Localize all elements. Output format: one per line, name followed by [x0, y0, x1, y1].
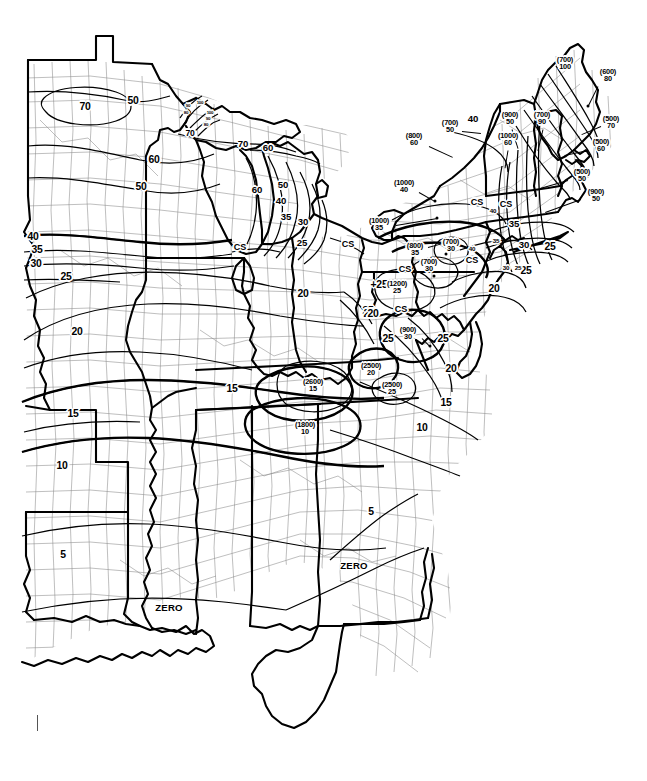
snow-load-value: 30	[421, 265, 437, 272]
contour-label: 70	[185, 129, 194, 138]
contour-label: 60	[148, 155, 159, 165]
contour-label: 15	[67, 409, 78, 419]
case-study-label: CS	[342, 240, 355, 249]
case-study-label: CS	[471, 198, 484, 207]
contour-label: 35	[493, 238, 499, 244]
elevation-limit-callout: (1800)10	[295, 421, 315, 436]
snow-load-value: 20	[361, 369, 381, 376]
snow-load-value: 35	[407, 249, 423, 256]
callout-leader-line	[582, 126, 601, 135]
contour-label: 35	[509, 219, 519, 229]
contour-label: 10	[56, 461, 67, 471]
snow-load-value: 25	[387, 287, 407, 294]
contour-label: 50	[278, 180, 288, 190]
contour-label: 20	[488, 284, 499, 294]
elevation-limit-callout: (500)50	[574, 168, 590, 183]
map-label-layer: 7050605070706090100801009080605040353025…	[0, 0, 647, 781]
contour-label: 35	[31, 245, 42, 255]
snow-load-value: 30	[400, 333, 416, 340]
callout-anchor-dot	[445, 253, 448, 256]
elevation-limit-callout: (2600)15	[303, 378, 323, 393]
contour-label: 40	[27, 232, 38, 242]
snow-load-value: 60	[498, 139, 518, 146]
contour-label: 15	[226, 384, 237, 394]
elevation-limit-callout: (900)50	[588, 188, 604, 203]
callout-leader-line	[505, 150, 509, 168]
case-study-label: CS	[234, 243, 247, 252]
callout-anchor-dot	[433, 275, 436, 278]
contour-label: 40	[469, 246, 475, 252]
contour-label: 25	[297, 238, 307, 248]
callout-anchor-dot	[434, 200, 437, 203]
elevation-limit-callout: (700)30	[421, 258, 437, 273]
callout-leader-line	[429, 146, 453, 158]
snow-load-value: 50	[442, 126, 458, 133]
contour-label: 70	[238, 139, 248, 149]
contour-label: 40	[490, 208, 496, 214]
elevation-limit-callout: (700)50	[442, 119, 458, 134]
contour-label: 40	[468, 114, 478, 124]
contour-label: 35	[281, 212, 291, 222]
snow-load-value: 25	[382, 388, 402, 395]
snow-load-value: 70	[603, 122, 619, 129]
zero-snow-load-label: ZERO	[155, 603, 182, 613]
contour-label: 60	[252, 185, 262, 195]
contour-label: 20	[297, 289, 308, 299]
case-study-label: CS	[500, 200, 513, 209]
snow-load-value: 90	[534, 118, 550, 125]
callout-anchor-dot	[436, 217, 439, 220]
contour-label: 100	[197, 101, 204, 105]
callout-anchor-dot	[429, 345, 432, 348]
contour-label: 25	[515, 265, 521, 271]
contour-label: 80	[204, 123, 208, 127]
elevation-limit-callout: (700)90	[534, 111, 550, 126]
snow-load-value: 60	[593, 145, 609, 152]
callout-leader-line	[428, 243, 443, 248]
elevation-limit-callout: (900)50	[502, 111, 518, 126]
case-study-label: CS	[395, 305, 408, 314]
elevation-limit-callout: (1000)60	[498, 132, 518, 147]
snow-load-value: 60	[406, 139, 422, 146]
contour-label: 40	[276, 196, 286, 206]
contour-label: 25	[544, 242, 555, 252]
callout-leader-line	[540, 180, 568, 189]
contour-label: 20	[367, 309, 378, 319]
callout-leader-line	[462, 131, 481, 134]
contour-label: +25	[370, 280, 387, 290]
callout-leader-line	[545, 199, 581, 213]
contour-label: 5	[368, 507, 374, 517]
contour-label: 50	[127, 96, 138, 106]
elevation-limit-callout: (900)30	[400, 326, 416, 341]
snow-load-value: 40	[394, 186, 414, 193]
elevation-limit-callout: (1200)25	[387, 280, 407, 295]
case-study-label: CS	[466, 256, 479, 265]
snow-load-value: 15	[303, 385, 323, 392]
contour-label: 30	[503, 265, 509, 271]
contour-label: 100	[207, 111, 214, 115]
callout-leader-line	[538, 129, 544, 150]
elevation-limit-callout: (500)60	[593, 138, 609, 153]
contour-label: 50	[135, 182, 146, 192]
snow-load-value: 50	[574, 175, 590, 182]
contour-label: 30	[30, 259, 41, 269]
contour-label: 5	[60, 550, 66, 560]
contour-label: 20	[445, 364, 456, 374]
snow-load-value: 50	[588, 195, 604, 202]
contour-label: 30	[519, 240, 529, 250]
ground-snow-load-map-figure: 7050605070706090100801009080605040353025…	[0, 0, 647, 781]
callout-leader-line	[588, 86, 599, 106]
elevation-limit-callout: (700)30	[443, 238, 459, 253]
elevation-limit-callout: (1000)35	[369, 217, 389, 232]
snow-load-value: 35	[369, 224, 389, 231]
contour-label: 60	[263, 143, 273, 153]
contour-label: 30	[298, 217, 308, 227]
contour-label: 15	[440, 398, 451, 408]
snow-load-value: 50	[502, 118, 518, 125]
case-study-label: CS	[399, 265, 412, 274]
elevation-limit-callout: (1000)40	[394, 179, 414, 194]
zero-snow-load-label: ZERO	[340, 561, 367, 571]
registration-tick-mark	[37, 715, 38, 731]
callout-leader-line	[565, 150, 588, 156]
elevation-limit-callout: (800)60	[406, 132, 422, 147]
elevation-limit-callout: (800)35	[407, 242, 423, 257]
